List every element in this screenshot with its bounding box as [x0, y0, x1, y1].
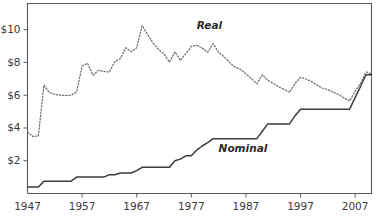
x-tick-label: 1967: [123, 200, 150, 212]
minimum-wage-chart: $2$4$6$8$10 1947195719671977198719972007…: [0, 0, 379, 222]
y-tick-label: $4: [7, 121, 21, 133]
x-tick-label: 1987: [233, 200, 260, 212]
y-tick-label: $2: [7, 154, 20, 166]
x-tick-label: 2007: [342, 200, 369, 212]
x-tick-label: 1947: [14, 200, 41, 212]
y-tick-label: $10: [0, 23, 20, 35]
x-tick-label: 1957: [69, 200, 96, 212]
x-tick-label: 1977: [178, 200, 205, 212]
series-label-real: Real: [197, 19, 223, 31]
y-tick-label: $6: [7, 89, 21, 101]
series-label-nominal: Nominal: [219, 142, 268, 154]
y-tick-label: $8: [7, 56, 20, 68]
chart-canvas: $2$4$6$8$10 1947195719671977198719972007…: [0, 0, 379, 222]
x-tick-label: 1997: [287, 200, 314, 212]
chart-background: [0, 0, 379, 222]
